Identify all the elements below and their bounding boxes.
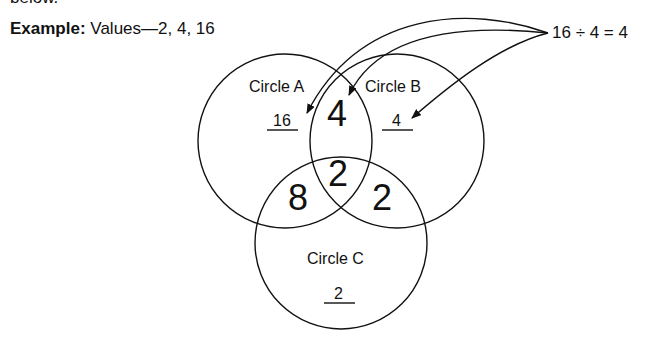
circle-a-value: 16 (273, 112, 291, 129)
circle-b-value: 4 (392, 112, 401, 129)
circle-a-label: Circle A (249, 78, 304, 95)
arrow-to-circle-b-value (412, 33, 548, 118)
intersection-abc: 2 (328, 153, 348, 194)
circle-c-label: Circle C (307, 250, 364, 267)
intersection-bc: 2 (372, 177, 392, 218)
intersection-ab: 4 (327, 93, 347, 134)
circle-c-value: 2 (334, 285, 343, 302)
venn-diagram: Circle A 16 Circle B 4 Circle C 2 4 2 8 … (0, 0, 656, 340)
intersection-ac: 8 (288, 177, 308, 218)
circle-b-label: Circle B (365, 78, 421, 95)
